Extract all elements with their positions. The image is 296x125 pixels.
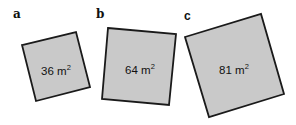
squares-figure: a 36 m2 b 64 m2 c 81 m2 [0, 0, 296, 125]
panel-c: c 81 m2 [184, 9, 284, 117]
panel-a: a 36 m2 [13, 7, 90, 101]
area-label-a: 36 m2 [41, 63, 71, 77]
area-label-b: 64 m2 [125, 62, 155, 76]
panel-label-c: c [184, 9, 191, 23]
panel-label-a: a [13, 7, 21, 21]
area-label-c: 81 m2 [219, 62, 249, 76]
figure-svg: a 36 m2 b 64 m2 c 81 m2 [0, 0, 296, 125]
panel-label-b: b [96, 7, 104, 21]
panel-b: b 64 m2 [96, 7, 176, 105]
